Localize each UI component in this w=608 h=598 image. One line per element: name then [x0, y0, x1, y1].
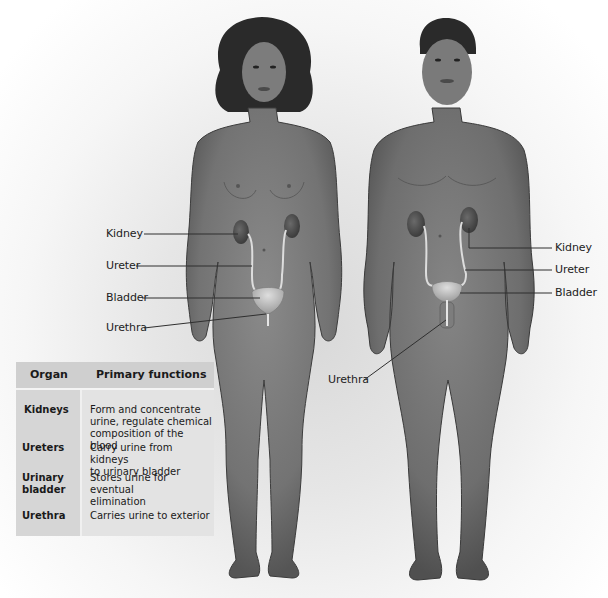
organ-name: Urethra [22, 510, 65, 522]
organ-name: Urinary bladder [22, 472, 65, 496]
organ-function: Stores urine for eventual elimination [90, 472, 214, 508]
organ-function-table: Organ Primary functions Kidneys Form and… [16, 362, 214, 536]
female-right-kidney [284, 214, 300, 238]
organ-name: Ureters [22, 442, 64, 454]
table-header: Organ Primary functions [16, 362, 214, 390]
female-left-kidney [233, 220, 249, 244]
male-left-kidney [407, 211, 425, 237]
female-label-urethra: Urethra [106, 322, 147, 334]
male-figure [364, 18, 534, 580]
female-label-bladder: Bladder [106, 292, 148, 304]
female-label-kidney: Kidney [106, 228, 143, 240]
column-divider [80, 390, 82, 536]
header-organ: Organ [30, 368, 68, 381]
female-label-ureter: Ureter [106, 260, 140, 272]
header-primary-functions: Primary functions [96, 368, 207, 381]
male-label-bladder: Bladder [555, 287, 597, 299]
male-label-ureter: Ureter [555, 264, 589, 276]
male-label-urethra: Urethra [328, 374, 369, 386]
organ-function: Carries urine to exterior [90, 510, 210, 522]
male-label-kidney: Kidney [555, 242, 592, 254]
organ-name: Kidneys [24, 404, 69, 416]
